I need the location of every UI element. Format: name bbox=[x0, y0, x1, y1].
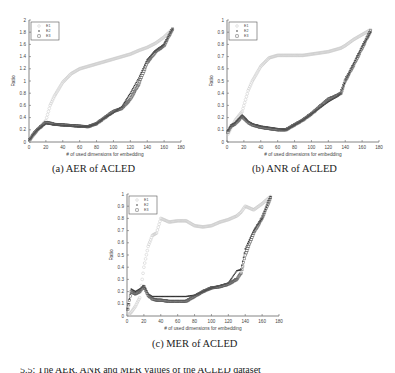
chart-aer-plot: 02040608010012014016018000.20.40.60.811.… bbox=[0, 0, 197, 160]
y-tick-label: 0 bbox=[23, 140, 26, 145]
y-tick-label: 0.1 bbox=[118, 301, 125, 306]
x-tick-label: 100 bbox=[208, 319, 216, 324]
legend: E1E2E3 bbox=[31, 22, 59, 40]
x-axis-label: # of used dimensions for embedding bbox=[264, 152, 342, 157]
y-tick-label: 0.2 bbox=[218, 115, 225, 120]
legend-entry: E2 bbox=[244, 29, 248, 33]
x-tick-label: 140 bbox=[341, 145, 349, 150]
x-axis-label: # of used dimensions for embedding bbox=[66, 152, 144, 157]
figure-caption-cutoff: 5.5: The AER, ANR and MER values of the … bbox=[0, 368, 395, 373]
y-tick-label: 1 bbox=[221, 18, 224, 23]
y-tick-label: 0.8 bbox=[118, 216, 125, 221]
caption-mer: (c) MER of ACLED bbox=[152, 338, 237, 349]
legend-entry: E3 bbox=[144, 208, 148, 212]
chart-mer: 02040608010012014016018000.10.20.30.40.5… bbox=[98, 174, 298, 338]
x-tick-label: 120 bbox=[324, 145, 332, 150]
chart-anr-plot: 02040608010012014016018000.10.20.30.40.5… bbox=[198, 0, 395, 160]
y-tick-label: 0.7 bbox=[218, 54, 225, 59]
x-tick-label: 20 bbox=[43, 145, 49, 150]
caption-anr: (b) ANR of ACLED bbox=[252, 163, 337, 174]
legend-entry: E1 bbox=[46, 24, 50, 28]
x-tick-label: 60 bbox=[77, 145, 83, 150]
x-tick-label: 100 bbox=[308, 145, 316, 150]
y-tick-label: 0.5 bbox=[118, 253, 125, 258]
y-tick-label: 0.5 bbox=[218, 79, 225, 84]
x-tick-label: 140 bbox=[241, 319, 249, 324]
y-tick-label: 0.6 bbox=[20, 103, 27, 108]
y-tick-label: 1.4 bbox=[20, 54, 27, 59]
x-tick-label: 40 bbox=[158, 319, 164, 324]
x-tick-label: 0 bbox=[28, 145, 31, 150]
legend: E1E2E3 bbox=[129, 196, 157, 214]
y-tick-label: 0.3 bbox=[218, 103, 225, 108]
y-axis-label: Ratio bbox=[209, 75, 214, 87]
y-tick-label: 1.6 bbox=[20, 42, 27, 47]
y-tick-label: 0.4 bbox=[218, 91, 225, 96]
y-tick-label: 0.7 bbox=[118, 228, 125, 233]
x-tick-label: 40 bbox=[60, 145, 66, 150]
chart-anr: 02040608010012014016018000.10.20.30.40.5… bbox=[198, 0, 395, 164]
y-axis-label: Ratio bbox=[109, 249, 114, 261]
y-tick-label: 0 bbox=[121, 314, 124, 319]
y-tick-label: 2 bbox=[23, 18, 26, 23]
y-tick-label: 0.2 bbox=[118, 289, 125, 294]
y-tick-label: 0 bbox=[221, 140, 224, 145]
x-tick-label: 120 bbox=[126, 145, 134, 150]
x-tick-label: 60 bbox=[275, 145, 281, 150]
x-tick-label: 140 bbox=[143, 145, 151, 150]
x-tick-label: 100 bbox=[110, 145, 118, 150]
x-tick-label: 180 bbox=[375, 145, 383, 150]
chart-mer-plot: 02040608010012014016018000.10.20.30.40.5… bbox=[98, 174, 298, 334]
caption-aer: (a) AER of ACLED bbox=[52, 163, 135, 174]
y-tick-label: 0.9 bbox=[118, 204, 125, 209]
y-tick-label: 1.8 bbox=[20, 30, 27, 35]
y-tick-label: 0.6 bbox=[218, 66, 225, 71]
x-tick-label: 20 bbox=[141, 319, 147, 324]
x-tick-label: 160 bbox=[160, 145, 168, 150]
legend-entry: E2 bbox=[144, 203, 148, 207]
y-axis-label: Ratio bbox=[11, 75, 16, 87]
series-e-2 bbox=[227, 31, 371, 131]
y-tick-label: 0.9 bbox=[218, 30, 225, 35]
legend-entry: E3 bbox=[46, 34, 50, 38]
x-tick-label: 160 bbox=[358, 145, 366, 150]
y-tick-label: 1 bbox=[121, 192, 124, 197]
y-tick-label: 1.2 bbox=[20, 66, 27, 71]
y-tick-label: 0.3 bbox=[118, 277, 125, 282]
y-tick-label: 0.4 bbox=[20, 115, 27, 120]
y-tick-label: 0.4 bbox=[118, 265, 125, 270]
y-tick-label: 0.1 bbox=[218, 127, 225, 132]
figure-caption-text: 5.5: The AER, ANR and MER values of the … bbox=[20, 368, 395, 373]
x-tick-label: 80 bbox=[94, 145, 100, 150]
y-tick-label: 0.2 bbox=[20, 127, 27, 132]
x-axis-label: # of used dimensions for embedding bbox=[164, 326, 242, 331]
series-e-1 bbox=[226, 28, 372, 135]
legend: E1E2E3 bbox=[229, 22, 257, 40]
legend-entry: E1 bbox=[144, 198, 148, 202]
legend-entry: E1 bbox=[244, 24, 248, 28]
chart-aer: 02040608010012014016018000.20.40.60.811.… bbox=[0, 0, 197, 164]
x-tick-label: 20 bbox=[241, 145, 247, 150]
y-tick-label: 1 bbox=[23, 79, 26, 84]
x-tick-label: 120 bbox=[224, 319, 232, 324]
y-tick-label: 0.8 bbox=[218, 42, 225, 47]
x-tick-label: 180 bbox=[177, 145, 185, 150]
x-tick-label: 80 bbox=[292, 145, 298, 150]
x-tick-label: 160 bbox=[258, 319, 266, 324]
x-tick-label: 80 bbox=[192, 319, 198, 324]
x-tick-label: 0 bbox=[126, 319, 129, 324]
x-tick-label: 40 bbox=[258, 145, 264, 150]
legend-entry: E2 bbox=[46, 29, 50, 33]
x-tick-label: 180 bbox=[275, 319, 283, 324]
legend-entry: E3 bbox=[244, 34, 248, 38]
x-tick-label: 60 bbox=[175, 319, 181, 324]
series-e-3 bbox=[227, 30, 372, 133]
x-tick-label: 0 bbox=[226, 145, 229, 150]
y-tick-label: 0.8 bbox=[20, 91, 27, 96]
y-tick-label: 0.6 bbox=[118, 240, 125, 245]
